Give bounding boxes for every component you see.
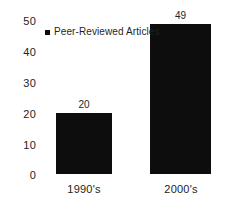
y-tick-label-10: 10 bbox=[10, 140, 36, 151]
legend-swatch-icon bbox=[45, 30, 50, 35]
bar-1990s bbox=[56, 113, 112, 174]
bar-2000s bbox=[150, 24, 211, 174]
y-tick-label-0: 0 bbox=[10, 170, 36, 181]
y-tick-label-50: 50 bbox=[10, 16, 36, 27]
bar-value-2000s: 49 bbox=[150, 11, 211, 21]
bar-value-1990s: 20 bbox=[56, 100, 112, 110]
category-label-1990s: 1990's bbox=[50, 184, 118, 195]
legend: Peer-Reviewed Articles bbox=[45, 27, 160, 37]
y-tick-label-30: 30 bbox=[10, 78, 36, 89]
y-tick-label-20: 20 bbox=[10, 109, 36, 120]
legend-label-peer-reviewed-articles: Peer-Reviewed Articles bbox=[54, 27, 160, 37]
category-label-2000s: 2000's bbox=[146, 184, 216, 195]
bar-chart: 50 40 30 20 10 0 20 1990's 49 2000's Pee… bbox=[0, 0, 226, 210]
y-tick-label-40: 40 bbox=[10, 47, 36, 58]
y-axis: 50 40 30 20 10 0 bbox=[10, 0, 36, 210]
